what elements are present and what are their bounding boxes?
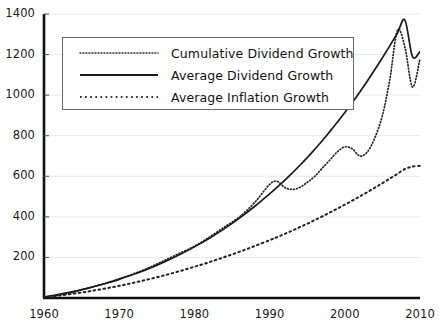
x-tick-label-2000: 2000 xyxy=(320,307,370,321)
x-tick-label-2010: 2010 xyxy=(395,307,439,321)
series-line-average-inflation-growth xyxy=(44,166,420,297)
legend-item-cumulative-dividend-growth: Cumulative Dividend Growth xyxy=(63,41,353,65)
legend-swatch-solid-icon xyxy=(79,68,159,82)
x-tick-label-1970: 1970 xyxy=(94,307,144,321)
legend-swatch-fine-dotted-icon xyxy=(79,46,159,60)
y-tick-label-1400: 1400 xyxy=(5,6,35,20)
x-tick-label-1990: 1990 xyxy=(245,307,295,321)
y-tick-label-400: 400 xyxy=(13,209,35,223)
legend-label-cumulative-dividend-growth: Cumulative Dividend Growth xyxy=(171,46,354,61)
x-tick-label-1960: 1960 xyxy=(19,307,69,321)
legend-item-average-inflation-growth: Average Inflation Growth xyxy=(63,85,353,109)
y-tick-label-1000: 1000 xyxy=(5,87,35,101)
y-tick-label-200: 200 xyxy=(13,249,35,263)
x-tick-label-1980: 1980 xyxy=(169,307,219,321)
legend-swatch-coarse-dotted-icon xyxy=(79,90,159,104)
y-tick-label-600: 600 xyxy=(13,168,35,182)
y-tick-label-1200: 1200 xyxy=(5,47,35,61)
chart-legend: Cumulative Dividend Growth Average Divid… xyxy=(62,37,354,110)
legend-item-average-dividend-growth: Average Dividend Growth xyxy=(63,63,353,87)
legend-label-average-inflation-growth: Average Inflation Growth xyxy=(171,90,329,105)
legend-label-average-dividend-growth: Average Dividend Growth xyxy=(171,68,333,83)
y-tick-label-800: 800 xyxy=(13,128,35,142)
